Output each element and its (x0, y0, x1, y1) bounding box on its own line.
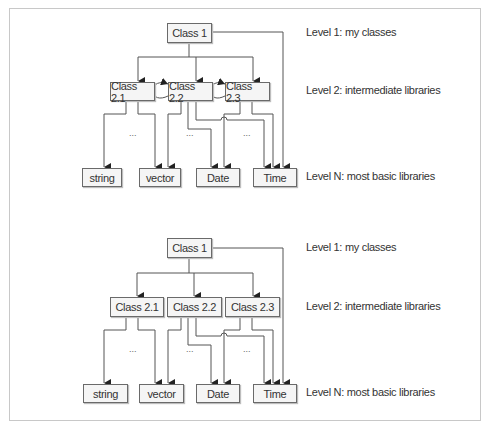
edge-class21-vector (138, 100, 155, 167)
edge2-class23-date (224, 316, 240, 383)
edge-cycle-21-22 (153, 83, 168, 98)
node-date: Date (196, 168, 240, 187)
node-date: Date (196, 384, 240, 403)
edge2-class22-vector (168, 316, 181, 383)
edge-cycle-22-23 (211, 83, 225, 98)
node-class23: Class 2.3 (225, 82, 270, 101)
edge2-class21-string (104, 316, 126, 383)
level-2-label: Level 2: intermediate libraries (306, 300, 440, 312)
node-class1: Class 1 (167, 238, 212, 258)
node-class22: Class 2.2 (168, 82, 213, 101)
level-1-label: Level 1: my classes (306, 26, 396, 38)
ellipsis: ... (129, 128, 137, 138)
edge2-class21-vector (138, 316, 155, 383)
node-time: Time (253, 168, 297, 187)
ellipsis: ... (243, 344, 251, 354)
node-string: string (82, 168, 122, 187)
edge2-class22-time (196, 316, 264, 383)
level-1-label: Level 1: my classes (306, 241, 396, 253)
node-vector: vector (139, 384, 184, 403)
edge-class21-string (104, 100, 126, 167)
node-class22: Class 2.2 (167, 297, 222, 317)
node-class21: Class 2.1 (110, 297, 164, 317)
node-class1: Class 1 (167, 23, 212, 43)
ellipsis: ... (186, 344, 194, 354)
node-vector: vector (139, 168, 181, 187)
level-n-label: Level N: most basic libraries (306, 170, 435, 182)
level-n-label: Level N: most basic libraries (306, 386, 435, 398)
node-string: string (83, 384, 128, 403)
edge-class23-time (252, 100, 273, 167)
edge-class22-time (196, 100, 264, 167)
edge-class22-vector (168, 100, 181, 167)
ellipsis: ... (243, 128, 251, 138)
edge2-class23-time (252, 316, 273, 383)
node-time: Time (253, 384, 297, 403)
ellipsis: ... (186, 128, 194, 138)
edge-class23-date (224, 100, 240, 167)
connector-layer (0, 0, 488, 429)
node-class23: Class 2.3 (225, 297, 280, 317)
level-2-label: Level 2: intermediate libraries (306, 84, 440, 96)
ellipsis: ... (129, 344, 137, 354)
node-class21: Class 2.1 (110, 82, 155, 101)
